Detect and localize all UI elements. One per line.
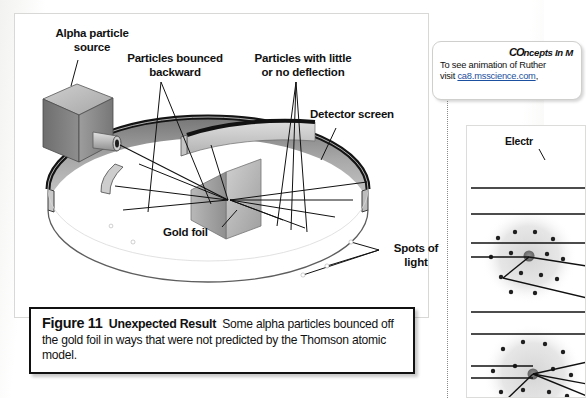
callout-brand-rest: ncepts In	[524, 47, 566, 58]
alpha-particle-source	[43, 84, 121, 162]
electron-leader-line	[539, 149, 545, 160]
thomson-atom-scattering-diagram	[467, 126, 586, 398]
figure-caption-box: Figure 11 Unexpected Result Some alpha p…	[29, 307, 415, 374]
label-source-line-1: Alpha particle	[37, 27, 147, 41]
ring-right-end-cap	[362, 189, 368, 212]
ring-left-end-cap	[48, 189, 54, 212]
label-detector-screen: Detector screen	[310, 108, 420, 122]
callout-brand-cut: M	[565, 47, 573, 58]
atom-diagram-lower	[483, 324, 583, 398]
label-gold-foil: Gold foil	[163, 226, 243, 240]
atom-cloud-lower	[483, 324, 583, 398]
callout-visit-text: visit	[440, 71, 457, 81]
callout-brand-title: COncepts In M	[440, 46, 573, 58]
label-spots-of-light: Spots of light	[383, 242, 449, 269]
column-divider	[447, 96, 448, 398]
callout-line-2: visit ca8.msscience.com,	[440, 71, 575, 82]
caption-figure-number: Figure 11	[42, 315, 102, 331]
label-little-line-2: or no deflection	[243, 66, 363, 80]
caption-title: Unexpected Result	[109, 317, 216, 331]
label-bounced-line-2: backward	[115, 66, 235, 80]
label-alpha-particle-source: Alpha particle source	[37, 27, 147, 54]
label-spots-line-2: light	[383, 256, 449, 270]
label-little-line-1: Particles with little	[243, 52, 363, 66]
figure-illustration-panel: Alpha particle source Particles bounced …	[14, 13, 429, 318]
ring-front-left-fragment	[101, 164, 123, 194]
callout-line2-suffix: ,	[536, 71, 538, 81]
label-particles-little-no-deflection: Particles with little or no deflection	[243, 52, 363, 79]
concepts-in-motion-callout[interactable]: COncepts In M To see animation of Ruther…	[432, 41, 582, 100]
callout-line-1: To see animation of Ruther	[440, 60, 575, 71]
label-particles-bounced-backward: Particles bounced backward	[115, 52, 235, 79]
incident-beam-path	[120, 145, 228, 200]
callout-brand-prefix: CO	[509, 46, 524, 58]
callout-website-link[interactable]: ca8.msscience.com	[457, 71, 535, 81]
figure-caption-text: Figure 11 Unexpected Result Some alpha p…	[42, 316, 403, 364]
thomson-model-diagram-panel: Electr	[466, 125, 586, 398]
label-bounced-line-1: Particles bounced	[115, 52, 235, 66]
label-electron: Electr	[505, 135, 533, 147]
source-nozzle-aperture	[115, 140, 119, 148]
atom-diagram-upper	[481, 208, 577, 304]
label-spots-line-1: Spots of	[383, 242, 449, 256]
